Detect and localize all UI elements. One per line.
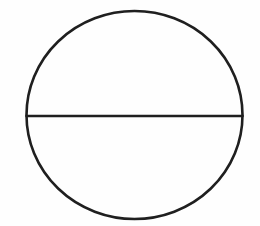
canvas-background	[0, 0, 260, 226]
figure-canvas	[0, 0, 260, 226]
circle-halved-diagram	[0, 0, 260, 226]
